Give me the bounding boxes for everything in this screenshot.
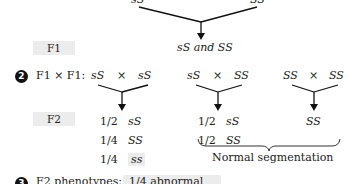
- parent-right: SS: [250, 0, 265, 6]
- f1-label: F1: [33, 41, 75, 55]
- step-3-badge: 3: [15, 177, 28, 184]
- step-2-badge: 2: [15, 70, 28, 83]
- cross1-x: ×: [117, 69, 126, 82]
- cross2-left: sS: [187, 69, 200, 82]
- cross1-right: sS: [138, 69, 151, 82]
- step-3-highlight: 1/4 abnormal: [123, 175, 221, 184]
- f2-col2: 1/2sS 1/2SS: [198, 112, 241, 150]
- f1-result: sS and SS: [177, 41, 233, 54]
- cross1-left: sS: [91, 69, 104, 82]
- cross3-right: SS: [329, 69, 344, 82]
- cross2-x: ×: [213, 69, 222, 82]
- cross3-left: SS: [283, 69, 298, 82]
- f2-row: 1/2SS: [198, 131, 241, 150]
- f2-label: F2: [33, 112, 75, 126]
- f2-col3: SS: [306, 112, 321, 131]
- f2-row: 1/4ss: [100, 150, 145, 169]
- f2-row: 1/2sS: [198, 112, 241, 131]
- cross2-right: SS: [234, 69, 249, 82]
- brace-label: Normal segmentation: [212, 151, 333, 164]
- cross3-x: ×: [309, 69, 318, 82]
- parent-left: sS: [131, 0, 144, 6]
- f2-row: 1/4SS: [100, 131, 145, 150]
- f2-row: 1/2sS: [100, 112, 145, 131]
- f2-col1: 1/2sS 1/4SS 1/4ss: [100, 112, 145, 169]
- step-3-label: F2 phenotypes:: [36, 175, 122, 184]
- step-2-label: F1 × F1:: [36, 69, 85, 82]
